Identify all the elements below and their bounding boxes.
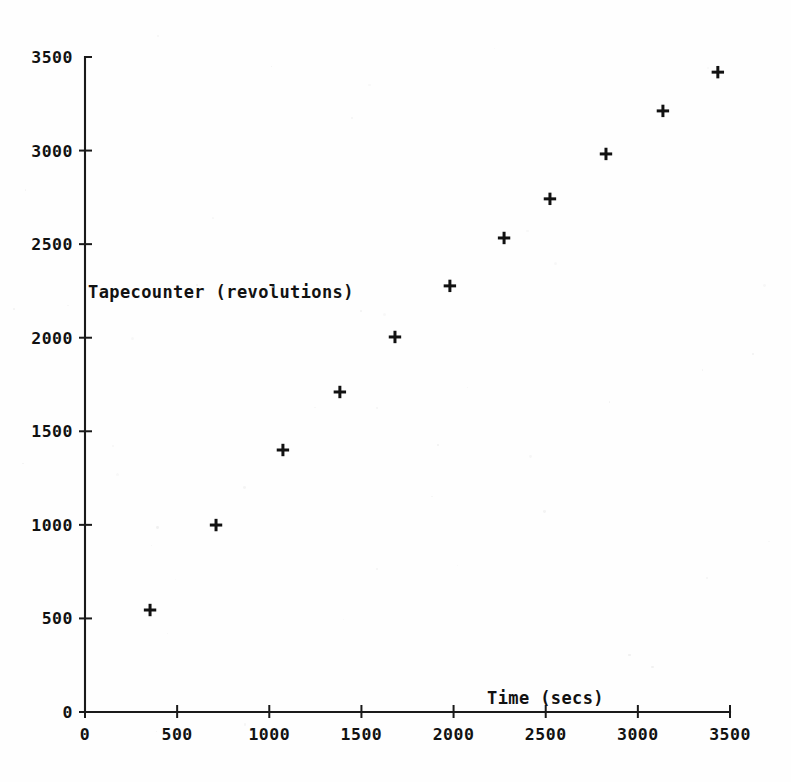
data-point-marker (144, 604, 156, 616)
y-axis-tick-label: 2000 (31, 329, 73, 348)
chart-figure: 0500100015002000250030003500 05001000150… (0, 0, 791, 782)
data-point-marker (657, 105, 669, 117)
y-axis-tick-label: 1500 (31, 422, 73, 441)
axes (85, 57, 730, 712)
data-point-marker (210, 519, 222, 531)
data-point-marker (334, 386, 346, 398)
data-point-marker (444, 280, 456, 292)
data-point-marker (712, 66, 724, 78)
y-axis-tick-label: 3000 (31, 142, 73, 161)
y-axis-title: Tapecounter (revolutions) (88, 282, 354, 302)
x-axis-tick-label: 3500 (709, 725, 751, 744)
x-axis-tick-label: 2500 (525, 725, 567, 744)
data-point-marker (544, 193, 556, 205)
y-axis-tick-labels: 0500100015002000250030003500 (31, 48, 73, 722)
x-axis-tick-label: 0 (80, 725, 90, 744)
y-axis-tick-label: 500 (42, 609, 73, 628)
x-axis-tick-label: 500 (161, 725, 192, 744)
x-axis-tick-label: 2000 (433, 725, 475, 744)
y-axis-tick-label: 0 (63, 703, 73, 722)
axis-ticks (79, 57, 730, 718)
x-axis-tick-label: 1500 (341, 725, 383, 744)
x-axis-title: Time (secs) (487, 688, 604, 708)
data-point-marker (498, 232, 510, 244)
x-axis-tick-label: 3000 (617, 725, 659, 744)
x-axis-tick-labels: 0500100015002000250030003500 (80, 725, 751, 744)
data-point-markers (144, 66, 724, 616)
x-axis-tick-label: 1000 (248, 725, 290, 744)
y-axis-tick-label: 1000 (31, 516, 73, 535)
data-point-marker (389, 331, 401, 343)
y-axis-tick-label: 3500 (31, 48, 73, 67)
data-point-marker (600, 148, 612, 160)
data-point-marker (277, 444, 289, 456)
y-axis-tick-label: 2500 (31, 235, 73, 254)
scatter-plot: 0500100015002000250030003500 05001000150… (0, 0, 791, 782)
